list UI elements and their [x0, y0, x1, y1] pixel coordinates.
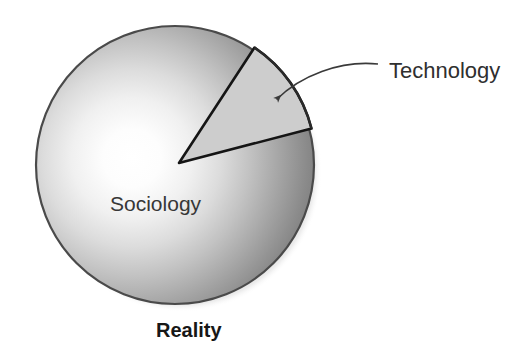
pie-diagram-canvas: Technology Sociology Reality	[0, 0, 513, 353]
technology-label: Technology	[389, 58, 500, 83]
sociology-label: Sociology	[110, 192, 202, 215]
reality-caption: Reality	[156, 319, 222, 341]
pie-diagram-figure: Technology Sociology Reality	[0, 0, 513, 353]
